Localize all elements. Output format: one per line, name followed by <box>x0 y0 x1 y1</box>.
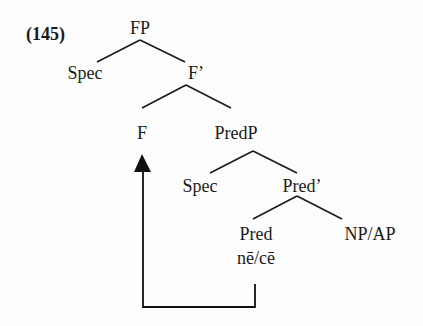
node-pred: Pred <box>240 224 273 244</box>
edge-fp-fbar <box>140 40 185 62</box>
node-f: F <box>137 123 147 143</box>
edge-fbar-predp <box>186 85 231 108</box>
arrowhead-icon <box>134 154 151 172</box>
edge-predp-predbar <box>253 151 297 173</box>
syntax-tree-diagram: (145) FP Spec F’ F PredP Spec Pred’ Pred… <box>0 0 423 326</box>
edge-fp-spec <box>97 40 140 62</box>
edge-predbar-pred <box>253 196 297 219</box>
node-predbar: Pred’ <box>283 176 322 196</box>
node-spec-fp: Spec <box>68 63 103 83</box>
node-fp: FP <box>130 18 150 38</box>
node-fbar: F’ <box>188 63 204 83</box>
node-np-ap: NP/AP <box>344 224 395 244</box>
tree-svg: (145) FP Spec F’ F PredP Spec Pred’ Pred… <box>0 0 423 326</box>
node-spec-predp: Spec <box>183 176 218 196</box>
example-number: (145) <box>26 24 65 45</box>
edge-predp-spec <box>210 151 253 173</box>
edge-predbar-npap <box>297 196 342 219</box>
node-predp: PredP <box>214 123 257 143</box>
node-pred-lexical: nē/cē <box>237 248 275 268</box>
edge-fbar-f <box>142 85 186 108</box>
